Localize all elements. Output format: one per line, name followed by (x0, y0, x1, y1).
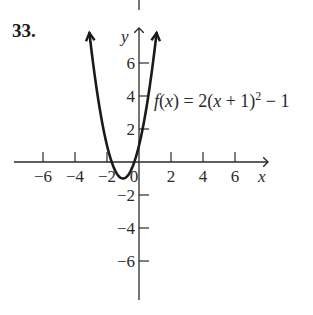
y-tick-label: 4 (127, 87, 136, 106)
x-axis-label: x (257, 167, 266, 186)
figure: 33. −6−4−22460 x −6−4−2246 y (0, 0, 313, 315)
x-tick-label: −6 (34, 167, 52, 186)
y-tick-label: 2 (127, 120, 136, 139)
x-tick-label: 6 (231, 167, 240, 186)
function-label: f(x) = 2(x + 1)2 − 1 (154, 89, 289, 112)
x-tick-label: 2 (167, 167, 176, 186)
y-tick-label: −4 (117, 219, 136, 238)
x-tick-label: 4 (199, 167, 208, 186)
y-tick-label: −2 (117, 186, 135, 205)
x-axis: −6−4−22460 x (14, 152, 268, 186)
x-tick-label: −4 (66, 167, 85, 186)
y-tick-label: −6 (117, 252, 135, 271)
x-tick-label: −2 (98, 167, 116, 186)
y-tick-label: 6 (127, 54, 136, 73)
problem-number: 33. (12, 20, 36, 42)
y-axis-label: y (119, 27, 129, 46)
graph: −6−4−22460 x −6−4−2246 y f(x) = 2(x + 1)… (0, 0, 313, 315)
parabola-curve (89, 33, 156, 179)
